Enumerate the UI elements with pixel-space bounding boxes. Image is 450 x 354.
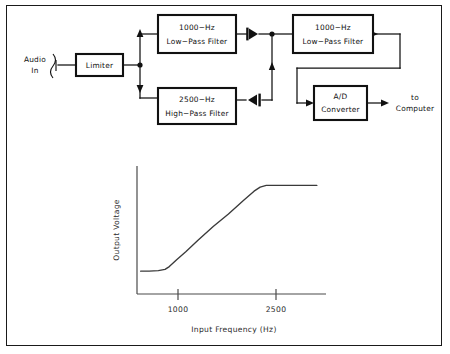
block-adc[interactable]: A/D Converter: [314, 86, 367, 120]
block-lpf1-rect[interactable]: [158, 15, 236, 53]
block-hpf-label-line1: 2500−Hz: [179, 95, 215, 104]
chart-response-curve: [141, 185, 317, 271]
block-limiter-label: Limiter: [86, 61, 114, 70]
block-adc-label-line2: Converter: [321, 105, 360, 114]
block-lpf1-label-line1: 1000−Hz: [179, 23, 215, 32]
arrow-to-computer-icon: [381, 100, 389, 107]
block-lpf2-rect[interactable]: [293, 15, 373, 53]
diode-bottom-icon: [248, 94, 261, 107]
arrow-into-adc-icon: [306, 100, 314, 107]
block-lpf1-label-line2: Low−Pass Filter: [167, 37, 229, 46]
figure-container: Limiter 1000−Hz Low−Pass Filter 2500−Hz …: [0, 0, 450, 354]
block-lpf2-label-line2: Low−Pass Filter: [303, 37, 365, 46]
arrow-up-to-lpf1-icon: [137, 29, 144, 37]
input-label-line1: Audio: [24, 55, 46, 64]
diode-top-icon: [246, 28, 258, 41]
response-chart: 1000 2500 Input Frequency (Hz) Output Vo…: [112, 166, 326, 334]
figure-canvas: Limiter 1000−Hz Low−Pass Filter 2500−Hz …: [0, 0, 450, 354]
output-label: to Computer: [396, 93, 435, 113]
block-limiter[interactable]: Limiter: [76, 54, 123, 76]
chart-xtick-label-2500: 2500: [266, 305, 287, 314]
block-adc-label-line1: A/D: [334, 92, 348, 101]
output-label-line1: to: [411, 93, 419, 102]
arrow-down-to-hpf-icon: [137, 85, 144, 93]
input-label-line2: In: [31, 66, 38, 75]
block-lpf2-label-line1: 1000−Hz: [315, 23, 351, 32]
block-lpf1[interactable]: 1000−Hz Low−Pass Filter: [158, 15, 236, 53]
arrow-up-riser-icon: [269, 62, 275, 70]
chart-xtick-label-1000: 1000: [168, 305, 189, 314]
chart-ylabel: Output Voltage: [112, 199, 121, 261]
output-label-line2: Computer: [396, 104, 435, 113]
block-hpf-label-line2: High−Pass Filter: [165, 109, 229, 118]
junction-dot-split: [137, 62, 142, 67]
block-hpf[interactable]: 2500−Hz High−Pass Filter: [158, 88, 236, 124]
input-label: Audio In: [24, 55, 46, 75]
junction-dot-sum: [269, 31, 274, 36]
chart-xlabel: Input Frequency (Hz): [191, 325, 276, 334]
block-lpf2[interactable]: 1000−Hz Low−Pass Filter: [293, 15, 373, 53]
block-hpf-rect[interactable]: [158, 88, 236, 124]
audio-jack-icon: [51, 54, 57, 78]
